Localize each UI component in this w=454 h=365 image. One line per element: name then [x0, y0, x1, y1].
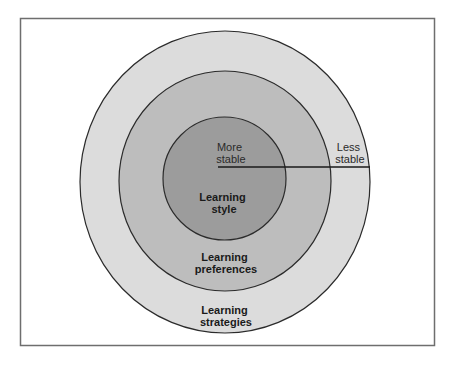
learning-strategies-line1: Learning	[201, 304, 247, 316]
more-stable-label: More stable	[216, 141, 245, 165]
learning-strategies-line2: strategies	[200, 316, 252, 328]
stability-diagram: More stable Less stable Learning style L…	[0, 0, 454, 365]
less-stable-line1: Less	[337, 141, 361, 153]
learning-style-line2: style	[211, 203, 236, 215]
inner-circle-learning-style	[163, 117, 286, 240]
more-stable-line1: More	[217, 141, 242, 153]
learning-style-line1: Learning	[199, 191, 245, 203]
learning-preferences-line1: Learning	[201, 251, 247, 263]
learning-strategies-label: Learning strategies	[200, 304, 252, 328]
learning-preferences-line2: preferences	[195, 263, 257, 275]
less-stable-label: Less stable	[335, 141, 364, 165]
learning-preferences-label: Learning preferences	[195, 251, 257, 275]
more-stable-line2: stable	[216, 153, 245, 165]
less-stable-line2: stable	[335, 153, 364, 165]
